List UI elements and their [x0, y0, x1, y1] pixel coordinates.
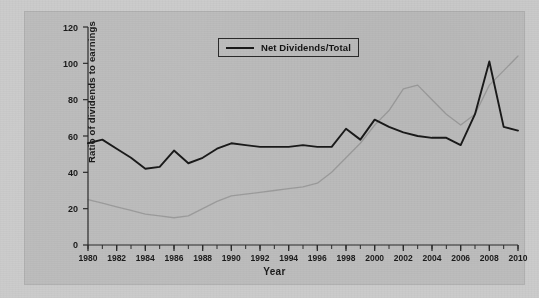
x-tick-label-2010: 2010 — [498, 253, 538, 263]
series-line-net-dividends-total — [88, 62, 518, 169]
x-axis-minor-ticks — [88, 245, 518, 249]
legend-line-swatch-icon — [226, 47, 254, 49]
figure-panel: Ratio of dividends to earnings 120 100 8… — [24, 11, 525, 285]
y-axis-ticks — [83, 27, 88, 245]
legend-label: Net Dividends/Total — [261, 42, 351, 53]
ghost-line-bleedthrough — [88, 56, 518, 218]
chart-legend: Net Dividends/Total — [218, 38, 359, 57]
chart-screenshot: Ratio of dividends to earnings 120 100 8… — [0, 0, 539, 298]
x-axis-title: Year — [24, 266, 525, 277]
